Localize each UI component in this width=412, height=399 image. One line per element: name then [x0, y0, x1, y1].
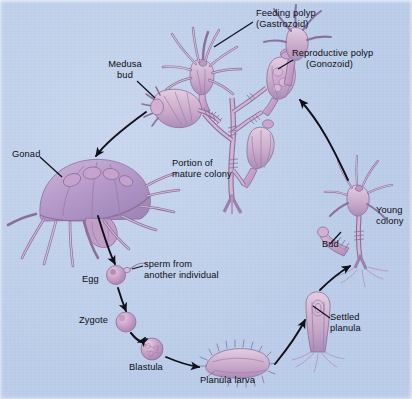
egg-artwork	[107, 266, 126, 285]
life-cycle-figure: Feeding polyp(Gastrozoid) Reproductive p…	[0, 0, 412, 399]
arrow-egg-to-zygote	[118, 288, 126, 311]
zygote-artwork	[116, 312, 136, 332]
label-egg: Egg	[82, 274, 99, 285]
leader-gonad	[40, 157, 62, 177]
arrow-settled-to-colony	[320, 266, 350, 290]
leader-feeding-polyp	[214, 22, 253, 47]
label-blastula: Blastula	[129, 362, 163, 373]
label-young-colony: Youngcolony	[376, 205, 403, 227]
label-feeding-polyp: Feeding polyp(Gastrozoid)	[256, 8, 316, 30]
label-zygote: Zygote	[79, 315, 108, 326]
label-gonad: Gonad	[12, 149, 40, 160]
leader-medusa-bud	[137, 81, 155, 98]
label-medusa-bud: Medusabud	[102, 59, 148, 81]
label-mature-colony: Portion ofmature colony	[172, 158, 232, 180]
label-settled-planula: Settledplanula	[330, 312, 361, 334]
reproductive-polyp-artwork-2	[233, 120, 274, 188]
arrow-bud-to-medusa	[96, 112, 146, 156]
label-sperm: sperm fromanother individual	[144, 259, 219, 281]
label-bud: Bud	[322, 239, 339, 250]
label-reproductive-polyp: Reproductive polyp(Gonozoid)	[292, 48, 373, 70]
medusa-artwork	[8, 159, 179, 266]
arrow-blastula-to-planula	[166, 357, 199, 367]
label-planula-larva: Planula larva	[200, 375, 255, 386]
